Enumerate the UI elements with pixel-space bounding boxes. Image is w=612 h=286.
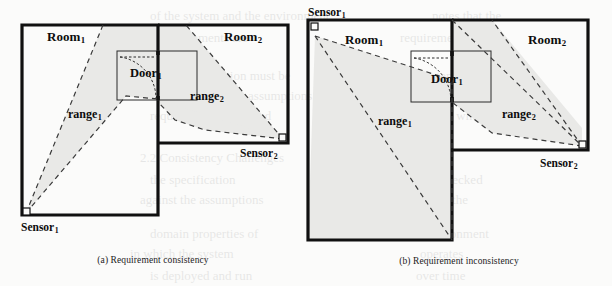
label-room2: Room2 xyxy=(528,33,566,46)
sensor1-icon xyxy=(311,23,318,30)
caption-panel-a: (a) Requirement consistency xyxy=(0,255,306,265)
sensor2-icon xyxy=(579,141,586,148)
label-room1: Room1 xyxy=(47,30,85,43)
label-room2: Room2 xyxy=(224,30,262,43)
panel-requirement-inconsistency: Sensor1 Room1 Room2 Door1 range1 range2 … xyxy=(306,0,612,286)
label-range1: range1 xyxy=(378,115,412,127)
range1-shaded-area xyxy=(308,36,452,240)
label-door1: Door1 xyxy=(431,73,463,86)
label-door1: Door1 xyxy=(130,67,162,80)
label-range2: range2 xyxy=(502,108,536,120)
sensor1-icon xyxy=(23,208,30,215)
caption-panel-b: (b) Requirement inconsistency xyxy=(306,256,612,266)
label-sensor1: Sensor1 xyxy=(308,7,346,19)
label-range2: range2 xyxy=(190,90,224,102)
panel-requirement-consistency: Room1 Room2 Door1 range1 range2 Sensor1 … xyxy=(0,0,306,286)
label-room1: Room1 xyxy=(345,33,383,46)
label-range1: range1 xyxy=(68,108,102,120)
figure-page: of the system and the environmentnotes t… xyxy=(0,0,612,286)
label-sensor2: Sensor2 xyxy=(240,148,278,160)
label-sensor1: Sensor1 xyxy=(21,222,59,234)
label-sensor2: Sensor2 xyxy=(540,158,578,170)
sensor2-icon xyxy=(279,134,286,141)
